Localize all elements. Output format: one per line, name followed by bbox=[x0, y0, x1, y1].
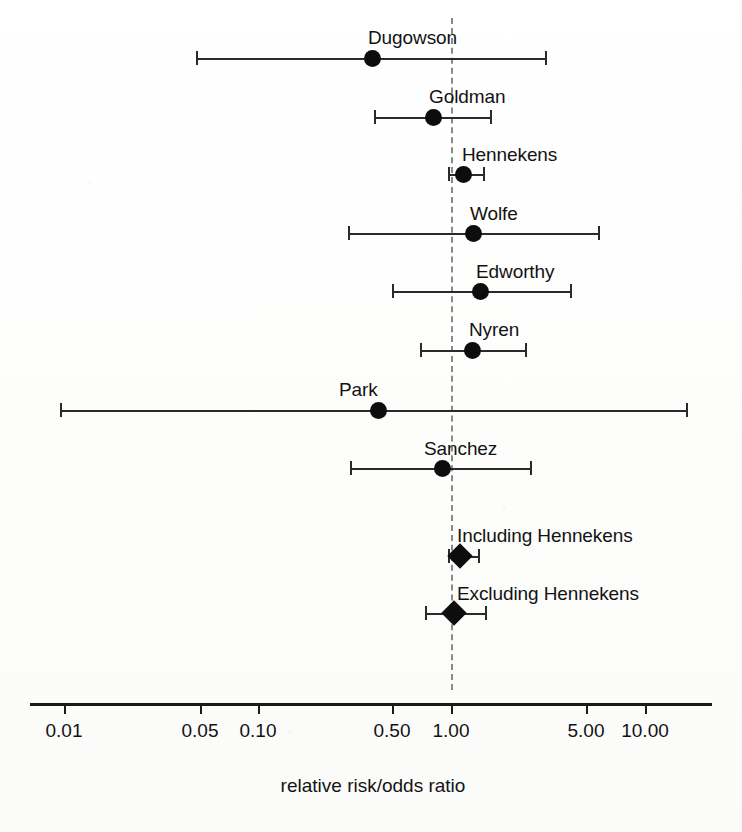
x-axis-tick-label: 0.05 bbox=[182, 721, 219, 740]
ci-upper-cap bbox=[483, 167, 485, 181]
ci-lower-cap bbox=[348, 226, 350, 240]
ci-lower-cap bbox=[374, 110, 376, 124]
x-axis-tick bbox=[586, 703, 588, 714]
forest-row-label: Edworthy bbox=[476, 262, 554, 281]
point-estimate-marker bbox=[370, 402, 387, 419]
forest-row-label: Goldman bbox=[429, 87, 505, 106]
x-axis-line bbox=[30, 703, 712, 706]
forest-row-label: Including Hennekens bbox=[457, 526, 633, 545]
ci-lower-cap bbox=[425, 606, 427, 620]
x-axis-tick bbox=[64, 703, 66, 714]
forest-row-label: Sanchez bbox=[424, 439, 497, 458]
ci-upper-cap bbox=[530, 461, 532, 475]
forest-row-label: Nyren bbox=[469, 320, 519, 339]
x-axis-tick bbox=[451, 703, 453, 714]
forest-row-label: Dugowson bbox=[368, 28, 457, 47]
point-estimate-marker bbox=[364, 50, 381, 67]
x-axis-tick bbox=[258, 703, 260, 714]
ci-upper-cap bbox=[525, 343, 527, 357]
x-axis-tick-label: 10.00 bbox=[621, 721, 669, 740]
x-axis-tick-label: 0.10 bbox=[240, 721, 277, 740]
ci-lower-cap bbox=[420, 343, 422, 357]
ci-upper-cap bbox=[490, 110, 492, 124]
point-estimate-marker bbox=[455, 166, 472, 183]
ci-lower-cap bbox=[448, 167, 450, 181]
forest-row-label: Wolfe bbox=[470, 204, 518, 223]
summary-diamond-marker bbox=[441, 600, 466, 625]
ci-upper-cap bbox=[686, 403, 688, 417]
x-axis-title: relative risk/odds ratio bbox=[281, 776, 466, 795]
forest-row-label: Park bbox=[339, 380, 378, 399]
point-estimate-marker bbox=[465, 225, 482, 242]
forest-plot: DugowsonGoldmanHennekensWolfeEdworthyNyr… bbox=[0, 0, 742, 832]
point-estimate-marker bbox=[425, 109, 442, 126]
ci-upper-cap bbox=[570, 284, 572, 298]
point-estimate-marker bbox=[434, 460, 451, 477]
ci-upper-cap bbox=[545, 51, 547, 65]
ci-lower-cap bbox=[60, 403, 62, 417]
ci-lower-cap bbox=[196, 51, 198, 65]
x-axis-tick-label: 0.50 bbox=[374, 721, 411, 740]
ci-upper-cap bbox=[598, 226, 600, 240]
x-axis-tick-label: 5.00 bbox=[568, 721, 605, 740]
ci-upper-cap bbox=[478, 549, 480, 563]
point-estimate-marker bbox=[464, 342, 481, 359]
ci-lower-cap bbox=[392, 284, 394, 298]
page-background bbox=[0, 0, 742, 832]
point-estimate-marker bbox=[472, 283, 489, 300]
x-axis-tick bbox=[392, 703, 394, 714]
x-axis-tick-label: 1.00 bbox=[433, 721, 470, 740]
ci-upper-cap bbox=[485, 606, 487, 620]
x-axis-tick-label: 0.01 bbox=[46, 721, 83, 740]
x-axis-tick bbox=[645, 703, 647, 714]
forest-row-label: Hennekens bbox=[462, 145, 557, 164]
forest-row-label: Excluding Hennekens bbox=[457, 584, 639, 603]
ci-lower-cap bbox=[350, 461, 352, 475]
x-axis-tick bbox=[200, 703, 202, 714]
